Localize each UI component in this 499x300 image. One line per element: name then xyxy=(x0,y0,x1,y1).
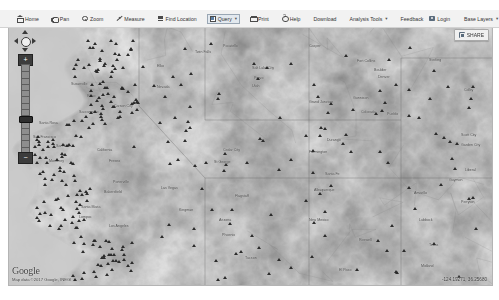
map-site-marker[interactable] xyxy=(135,100,139,103)
map-site-marker[interactable] xyxy=(467,106,471,109)
map-site-marker[interactable] xyxy=(210,208,214,211)
map-site-marker[interactable] xyxy=(183,47,187,50)
toolbar-item-download[interactable]: Download xyxy=(310,14,339,24)
toolbar-item-find-location[interactable]: Find Location xyxy=(155,14,200,24)
map-site-marker[interactable] xyxy=(408,46,412,49)
map-site-marker[interactable] xyxy=(50,178,54,181)
map-site-marker[interactable] xyxy=(89,103,93,106)
map-site-marker[interactable] xyxy=(60,155,64,158)
map-site-marker[interactable] xyxy=(77,211,81,214)
map-site-marker[interactable] xyxy=(74,226,78,229)
toolbar-item-pan[interactable]: Pan xyxy=(49,14,72,24)
map-viewport[interactable]: Fort CollinsBoulderDenverGunnisonNevadaU… xyxy=(8,27,493,286)
pan-center-button[interactable] xyxy=(21,37,31,47)
pan-up-arrow-icon[interactable] xyxy=(22,30,28,34)
share-button[interactable]: SHARE xyxy=(454,29,489,41)
map-site-marker[interactable] xyxy=(230,208,234,211)
map-site-marker[interactable] xyxy=(88,187,92,190)
base-layers-button[interactable]: Base Layers ▾ xyxy=(461,14,499,24)
map-site-marker[interactable] xyxy=(471,196,475,199)
map-site-marker[interactable] xyxy=(200,187,204,190)
toolbar-item-analysis-tools[interactable]: Analysis Tools▾ xyxy=(347,14,391,24)
zoom-out-button[interactable]: − xyxy=(18,152,33,164)
map-site-marker[interactable] xyxy=(269,213,273,216)
map-site-marker[interactable] xyxy=(106,92,110,95)
map-site-marker[interactable] xyxy=(78,203,82,206)
map-site-marker[interactable] xyxy=(257,246,261,249)
map-site-marker[interactable] xyxy=(85,192,89,195)
map-site-marker[interactable] xyxy=(103,62,107,65)
map-site-marker[interactable] xyxy=(107,240,111,243)
map-site-marker[interactable] xyxy=(188,105,192,108)
map-site-marker[interactable] xyxy=(258,137,262,140)
map-site-marker[interactable] xyxy=(63,218,67,221)
map-site-marker[interactable] xyxy=(114,42,118,45)
map-site-marker[interactable] xyxy=(224,163,228,166)
map-site-marker[interactable] xyxy=(122,258,126,261)
map-site-marker[interactable] xyxy=(80,193,84,196)
map-site-marker[interactable] xyxy=(239,250,243,253)
map-site-marker[interactable] xyxy=(91,243,95,246)
pan-right-arrow-icon[interactable] xyxy=(32,38,36,44)
map-site-marker[interactable] xyxy=(60,179,64,182)
map-site-marker[interactable] xyxy=(87,126,91,129)
map-site-marker[interactable] xyxy=(130,111,134,114)
map-site-marker[interactable] xyxy=(355,268,359,271)
map-site-marker[interactable] xyxy=(52,173,56,176)
map-site-marker[interactable] xyxy=(455,142,459,145)
map-site-marker[interactable] xyxy=(97,96,101,99)
map-site-marker[interactable] xyxy=(311,171,315,174)
map-site-marker[interactable] xyxy=(103,122,107,125)
map-site-marker[interactable] xyxy=(76,58,80,61)
map-site-marker[interactable] xyxy=(158,121,162,124)
map-site-marker[interactable] xyxy=(152,84,156,87)
map-site-marker[interactable] xyxy=(141,65,145,68)
map-site-marker[interactable] xyxy=(46,145,50,148)
map-site-marker[interactable] xyxy=(62,170,66,173)
map-site-marker[interactable] xyxy=(434,132,438,135)
map-site-marker[interactable] xyxy=(51,138,55,141)
map-site-marker[interactable] xyxy=(110,70,114,73)
map-site-marker[interactable] xyxy=(85,199,89,202)
map-site-marker[interactable] xyxy=(80,277,84,280)
map-site-marker[interactable] xyxy=(54,198,58,201)
map-site-marker[interactable] xyxy=(278,116,282,119)
map-site-marker[interactable] xyxy=(256,77,260,80)
map-site-marker[interactable] xyxy=(78,189,82,192)
map-site-marker[interactable] xyxy=(130,261,134,264)
map-site-marker[interactable] xyxy=(326,111,330,114)
map-site-marker[interactable] xyxy=(71,215,75,218)
map-site-marker[interactable] xyxy=(385,249,389,252)
map-site-marker[interactable] xyxy=(448,140,452,143)
map-site-marker[interactable] xyxy=(344,133,348,136)
map-site-marker[interactable] xyxy=(82,218,86,221)
map-site-marker[interactable] xyxy=(93,110,97,113)
toolbar-item-feedback[interactable]: Feedback xyxy=(398,14,427,24)
map-site-marker[interactable] xyxy=(450,157,454,160)
map-site-marker[interactable] xyxy=(106,262,110,265)
toolbar-item-query[interactable]: Query▾ xyxy=(207,14,240,24)
map-site-marker[interactable] xyxy=(72,67,76,70)
map-site-marker[interactable] xyxy=(74,63,78,66)
map-site-marker[interactable] xyxy=(318,192,322,195)
map-site-marker[interactable] xyxy=(121,245,125,248)
zoom-slider-thumb[interactable] xyxy=(19,116,33,123)
map-site-marker[interactable] xyxy=(163,95,167,98)
map-site-marker[interactable] xyxy=(341,142,345,145)
map-site-marker[interactable] xyxy=(43,177,47,180)
map-site-marker[interactable] xyxy=(93,42,97,45)
map-site-marker[interactable] xyxy=(70,221,74,224)
map-site-marker[interactable] xyxy=(184,129,188,132)
map-site-marker[interactable] xyxy=(132,145,136,148)
map-site-marker[interactable] xyxy=(111,64,115,67)
map-site-marker[interactable] xyxy=(45,161,49,164)
map-site-marker[interactable] xyxy=(117,53,121,56)
map-site-marker[interactable] xyxy=(390,224,394,227)
map-site-marker[interactable] xyxy=(376,239,380,242)
map-site-marker[interactable] xyxy=(102,256,106,259)
map-site-marker[interactable] xyxy=(101,93,105,96)
map-site-marker[interactable] xyxy=(37,219,41,222)
map-site-marker[interactable] xyxy=(43,183,47,186)
map-site-marker[interactable] xyxy=(474,227,478,230)
map-site-marker[interactable] xyxy=(117,260,121,263)
